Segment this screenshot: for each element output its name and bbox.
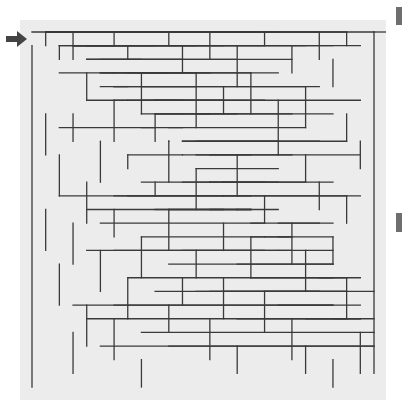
maze-board <box>20 20 386 400</box>
maze-walls <box>20 20 386 400</box>
top-marker <box>396 7 402 25</box>
middle-marker <box>396 213 402 232</box>
start-arrow-icon <box>6 31 28 47</box>
